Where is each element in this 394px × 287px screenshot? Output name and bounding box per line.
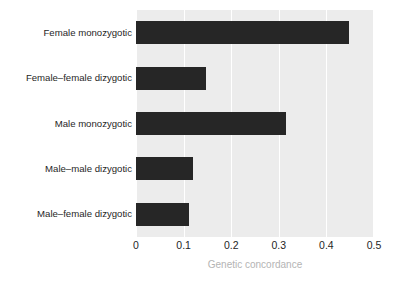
gridline-x-0.5: [373, 10, 374, 237]
x-tick-label-0.3: 0.3: [271, 239, 286, 251]
category-label-3: Male monozygotic: [4, 118, 132, 129]
bar-chart-figure: Female monozygoticFemale–female dizygoti…: [0, 0, 394, 287]
category-label-1: Female monozygotic: [4, 27, 132, 38]
bar-4: [136, 157, 193, 180]
x-tick-label-0.4: 0.4: [319, 239, 334, 251]
x-tick-label-0.2: 0.2: [224, 239, 239, 251]
bar-2: [136, 67, 206, 90]
x-tick-label-0: 0: [133, 239, 139, 251]
plot-area: [136, 10, 374, 237]
bar-3: [136, 112, 286, 135]
category-label-2: Female–female dizygotic: [4, 72, 132, 83]
x-tick-label-0.1: 0.1: [176, 239, 191, 251]
x-tick-label-0.5: 0.5: [367, 239, 382, 251]
category-label-4: Male–male dizygotic: [4, 163, 132, 174]
bar-5: [136, 203, 189, 226]
x-axis-ticks: 00.10.20.30.40.5: [136, 239, 374, 255]
bar-1: [136, 21, 349, 44]
category-label-5: Male–female dizygotic: [4, 208, 132, 219]
category-axis-labels: Female monozygoticFemale–female dizygoti…: [0, 10, 132, 237]
x-axis-title: Genetic concordance: [136, 259, 374, 270]
